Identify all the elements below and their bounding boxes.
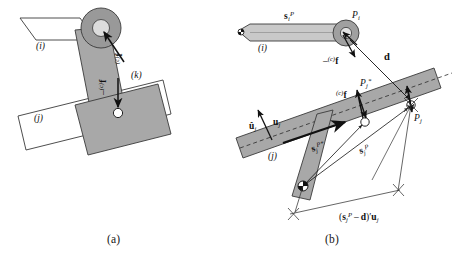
panel-a-label-link-j: (j): [34, 113, 43, 123]
panel-b-vector-label-d: d: [384, 52, 390, 63]
d-bold: d: [384, 51, 390, 62]
sjps-sup: P*: [315, 139, 324, 148]
panel-a-force-label-upper: (c)f: [114, 64, 125, 75]
panel-a-pivot-hub: [81, 8, 121, 48]
panel-b-point-label-pi: Pi: [352, 11, 360, 21]
fpi-symbol: f: [335, 56, 338, 66]
panel-b-point-pj-star: [361, 118, 369, 126]
panel-b-force-label-pj: (c)f: [336, 90, 347, 101]
panel-b-point-label-pj-star: Pj*: [360, 78, 371, 89]
caption-panel-a: (a): [107, 233, 120, 245]
panel-b-label-link-j: (j): [268, 151, 277, 161]
pi-sub: i: [358, 14, 360, 21]
panel-b-vector-label-s-i-P: siP: [284, 11, 294, 22]
s-i-sup: P: [290, 10, 294, 17]
pj-sub: j: [420, 117, 422, 124]
fpi-presup: (c): [328, 55, 335, 62]
panel-b-point-label-pj: Pj: [414, 114, 422, 124]
panel-b-leader-pj: [372, 109, 409, 180]
pi-symbol: P: [352, 10, 358, 20]
figure-container: (i) (j) (k) (c)f –(c)f siP (i) Pi –(c)f …: [0, 0, 469, 258]
panel-a-force-lower-sign: –: [98, 90, 108, 95]
panel-a-label-link-i: (i): [36, 41, 45, 51]
caption-panel-b: (b): [325, 233, 339, 245]
panel-a-label-link-k: (k): [131, 70, 142, 80]
panel-a-graphics: [18, 8, 171, 155]
panel-a-joint-pin: [113, 108, 122, 117]
uj-sub: j: [278, 121, 280, 128]
panel-b-link-i: [238, 24, 340, 41]
pjs-symbol: P: [360, 78, 366, 88]
figure-svg: [0, 0, 469, 258]
panel-b-link-i-left-pin: [238, 29, 244, 35]
panel-a-force-upper-presup: (c): [113, 57, 120, 64]
panel-b-hub-pi: [333, 20, 359, 46]
proj-s-sup: P: [348, 211, 352, 218]
panel-a-force-lower-symbol: f: [98, 80, 108, 83]
panel-b-force-label-pi: –(c)f: [323, 56, 338, 67]
proj-minus: –: [354, 212, 359, 222]
panel-a-force-label-lower: –(c)f: [98, 95, 113, 106]
fpj-symbol: f: [343, 90, 346, 100]
uhat-sub: j: [254, 125, 256, 132]
proj-u-bold: u: [371, 212, 376, 222]
panel-b-projection-label: (sjP – d)′uj: [339, 212, 379, 223]
panel-a-force-upper-symbol: f: [114, 53, 124, 56]
pjs-sup: *: [368, 77, 371, 84]
panel-a-force-lower-presup: (c): [97, 83, 104, 90]
panel-b-vector-label-u-hat-j: ûj: [249, 122, 256, 132]
proj-u-sub: j: [377, 216, 379, 223]
panel-b-label-link-i: (i): [258, 43, 267, 53]
panel-b-vector-label-u-j: uj: [273, 118, 280, 128]
pj-symbol: P: [414, 113, 420, 123]
